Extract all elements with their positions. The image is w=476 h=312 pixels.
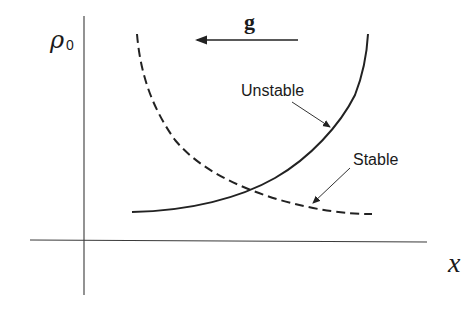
unstable-pointer-arrow-icon [292, 102, 330, 127]
stable-pointer-arrow-icon [313, 168, 350, 203]
stable-label: Stable [353, 151, 398, 168]
unstable-curve [132, 34, 368, 212]
y-axis-label: ρ 0 [49, 26, 74, 54]
y-axis-symbol: ρ [49, 26, 64, 54]
stability-diagram: ρ 0 x g Unstable Stable [0, 0, 476, 312]
x-axis-label: x [447, 247, 461, 278]
gravity-label: g [244, 9, 255, 34]
x-axis [30, 240, 427, 242]
y-axis-subscript: 0 [66, 37, 74, 53]
unstable-label: Unstable [241, 82, 304, 99]
